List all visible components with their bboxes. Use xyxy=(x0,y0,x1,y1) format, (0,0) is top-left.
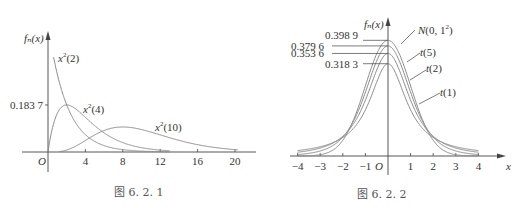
x-axis-arrow-icon xyxy=(497,154,506,159)
figure-caption-1: 图 6. 2. 1 xyxy=(114,183,163,199)
x-tick-label: −4 xyxy=(292,160,304,172)
series-label: t(2) xyxy=(426,62,442,75)
figure-caption-2: 图 6. 2. 2 xyxy=(357,185,406,201)
y-axis-label: fₙ(x) xyxy=(364,18,384,31)
peak-value-label: 0.398 9 xyxy=(325,29,359,41)
x-tick-label: −2 xyxy=(337,160,349,172)
x-tick-label: −3 xyxy=(314,160,326,172)
x-tick-label: 2 xyxy=(430,160,436,172)
t-distribution-density-chart: fₙ(x)xO−4−3−2−112340.398 90.379 60.353 6… xyxy=(0,0,517,208)
series-label: t(1) xyxy=(440,86,456,99)
series-label: N(0, 12) xyxy=(417,23,453,37)
peak-value-label: 0.318 3 xyxy=(325,58,359,70)
x-tick-label: 1 xyxy=(408,160,414,172)
x-axis-label: x xyxy=(505,160,511,172)
x-tick-label: 4 xyxy=(476,160,482,172)
x-tick-label: −1 xyxy=(360,160,372,172)
series-label: t(5) xyxy=(420,46,436,59)
y-axis-arrow-icon xyxy=(386,17,391,26)
peak-value-label: 0.353 6 xyxy=(291,47,325,59)
x-tick-label: 3 xyxy=(453,160,459,172)
origin-label: O xyxy=(375,160,383,172)
